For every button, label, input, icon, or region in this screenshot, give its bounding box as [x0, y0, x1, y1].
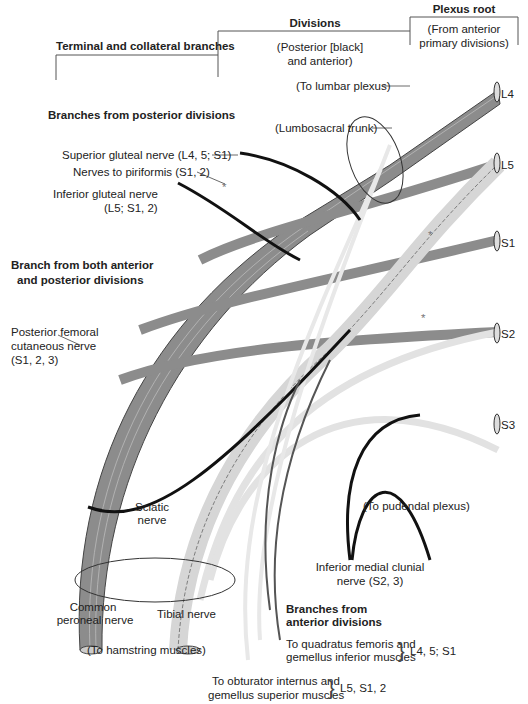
to-hamstring-muscles-label: (To hamstring muscles): [87, 643, 206, 657]
common-peroneal-label-2: peroneal nerve: [55, 613, 135, 627]
posterior-femoral-label-3: (S1, 2, 3): [11, 353, 58, 367]
both-divisions-heading-2: and posterior divisions: [17, 273, 144, 287]
obturator-label-2: gemellus superior muscles: [208, 688, 344, 702]
obturator-label-1: To obturator internus and: [212, 674, 340, 688]
divisions-sub-1: (Posterior [black]: [260, 40, 380, 54]
lumbosacral-trunk-label: (Lumbosacral trunk): [275, 121, 377, 135]
nerves-to-piriformis-label: Nerves to piriformis (S1, 2): [73, 165, 210, 179]
asterisk-marker-s2: *: [421, 311, 425, 325]
to-lumbar-plexus-label: (To lumbar plexus): [296, 79, 391, 93]
sciatic-nerve-label-1: Sciatic: [122, 500, 182, 514]
obturator-brace: }: [328, 674, 335, 702]
plexus-root-sub-2: primary divisions): [410, 36, 518, 50]
posterior-femoral-label-2: cutaneous nerve: [11, 339, 96, 353]
superior-gluteal-label: Superior gluteal nerve (L4, 5; S1): [62, 148, 231, 162]
posterior-femoral-label-1: Posterior femoral: [11, 325, 99, 339]
anterior-divisions-heading-1: Branches from: [286, 602, 367, 616]
asterisk-marker-s1: *: [428, 228, 432, 242]
quadratus-label-1: To quadratus femoris and: [286, 637, 416, 651]
root-caps: [494, 82, 500, 434]
inferior-medial-clunial-label-1: Inferior medial clunial: [300, 560, 440, 574]
inferior-medial-clunial-label-2: nerve (S2, 3): [300, 574, 440, 588]
anterior-divisions-heading-2: anterior divisions: [286, 615, 382, 629]
root-label-s3: S3: [501, 418, 515, 432]
root-label-l4: L4: [501, 87, 514, 101]
to-pudendal-plexus-label: (To pudendal plexus): [363, 499, 470, 513]
common-peroneal-label-1: Common: [58, 600, 128, 614]
sciatic-nerve-label-2: nerve: [122, 513, 182, 527]
root-label-s2: S2: [501, 327, 515, 341]
quadratus-roots-label: L4, 5; S1: [410, 644, 456, 658]
divisions-heading: Divisions: [260, 16, 370, 30]
plexus-root-sub-1: (From anterior: [410, 22, 518, 36]
asterisk-marker: *: [222, 180, 226, 194]
obturator-roots-label: L5, S1, 2: [340, 681, 386, 695]
tibial-nerve-label: Tibial nerve: [157, 607, 216, 621]
both-divisions-heading-1: Branch from both anterior: [11, 258, 153, 272]
plexus-root-heading: Plexus root: [410, 2, 518, 16]
divisions-sub-2: and anterior): [260, 54, 380, 68]
inferior-gluteal-label-2: (L5; S1, 2): [104, 201, 158, 215]
quadratus-brace: }: [398, 637, 405, 665]
posterior-divisions-heading: Branches from posterior divisions: [48, 108, 235, 122]
root-label-s1: S1: [501, 236, 515, 250]
inferior-gluteal-label-1: Inferior gluteal nerve: [53, 187, 158, 201]
quadratus-label-2: gemellus inferior muscles: [286, 650, 416, 664]
root-label-l5: L5: [501, 158, 514, 172]
terminal-branches-heading: Terminal and collateral branches: [56, 39, 235, 53]
